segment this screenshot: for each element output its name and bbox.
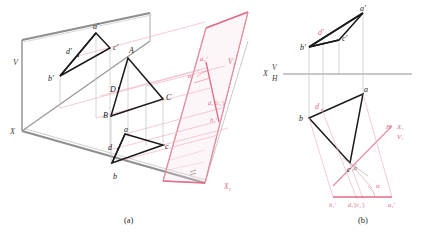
caption-b: (b) xyxy=(358,215,368,225)
v-plane xyxy=(22,13,152,131)
label-b1-aux: b₁′ xyxy=(210,116,218,123)
label-D-space: D xyxy=(109,85,116,94)
v1-plane xyxy=(163,12,248,183)
pictorial-figure-a: V X X₁ V₁ a′ c′ b′ d′ A B C D a b c d a₁… xyxy=(9,12,248,225)
label-x1-axis: X₁ xyxy=(223,182,232,191)
label-c-top-b: c xyxy=(347,165,351,174)
label-alpha-angle-b: α xyxy=(376,182,380,190)
label-d-front-b: d′ xyxy=(318,28,324,37)
caption-a: (a) xyxy=(124,215,134,225)
label-aux-x1-b: X₁ xyxy=(396,123,404,131)
label-c-front-b: c′ xyxy=(342,34,348,43)
label-aux-v1-b: V₁ xyxy=(397,133,404,141)
label-h-axis-b: H xyxy=(271,74,278,83)
point-d-front xyxy=(77,55,79,57)
point-d-space xyxy=(118,87,120,89)
label-a-front: a′ xyxy=(93,22,99,31)
label-C-space: C xyxy=(166,93,172,102)
label-x-axis-b: X xyxy=(262,69,269,78)
label-c-top: c xyxy=(165,142,169,151)
label-d-top: d xyxy=(108,143,113,152)
v-plane-top-edge xyxy=(22,13,150,40)
orthographic-figure-b: X V H a′ b′ c′ d′ a b c d H X₁ V₁ b₁′ d₁… xyxy=(262,4,412,225)
label-a1-aux: a₁′ xyxy=(200,55,208,63)
descriptive-geometry-figure: V X X₁ V₁ a′ c′ b′ d′ A B C D a b c d a₁… xyxy=(0,0,425,235)
label-v-axis-b: V xyxy=(272,63,278,72)
point-d-top xyxy=(117,148,119,150)
label-dc1-aux-b: d₁′(c₁′) xyxy=(348,202,364,209)
label-b1-aux-b: b₁′ xyxy=(329,201,337,208)
label-d-front: d′ xyxy=(66,47,72,56)
label-A-space: A xyxy=(128,46,134,55)
label-v-plane: V xyxy=(13,58,19,67)
label-a-front-b: a′ xyxy=(360,4,366,13)
label-b-top-b: b xyxy=(299,114,303,123)
label-b-front: b′ xyxy=(48,74,54,83)
label-B-space: B xyxy=(103,111,108,120)
label-dc1-aux: d₁′(c₁′) xyxy=(208,100,224,107)
label-x-axis: X xyxy=(9,127,16,136)
label-d-top-b: d xyxy=(315,102,320,111)
label-b-top: b xyxy=(113,172,117,181)
label-alpha-angle-a: α xyxy=(188,72,192,80)
label-a-top-b: a xyxy=(364,85,368,94)
label-v1-plane: V₁ xyxy=(228,57,236,66)
label-aux-h-b: H xyxy=(385,123,392,131)
label-a-top: a xyxy=(124,125,128,134)
label-a1-aux-b: a₁′ xyxy=(388,201,396,208)
label-c-front: c′ xyxy=(113,43,119,52)
label-b-front-b: b′ xyxy=(300,43,306,52)
